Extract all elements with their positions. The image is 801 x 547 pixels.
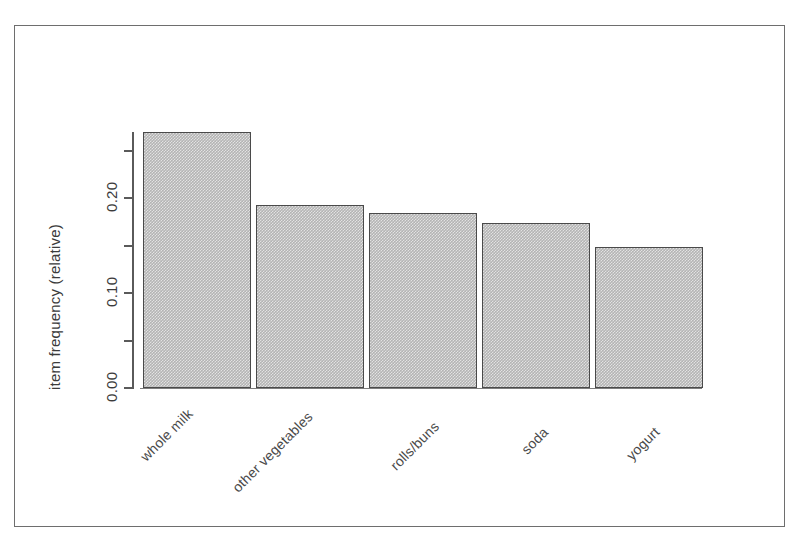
bar-rolls-buns[interactable]	[369, 213, 477, 388]
bar-chart-plot: item frequency (relative) 0.00 0.10 0.20…	[0, 0, 801, 547]
x-label-whole-milk: whole milk	[137, 405, 196, 464]
bar-whole-milk[interactable]	[143, 132, 251, 389]
y-tick-2	[124, 292, 133, 294]
x-axis-baseline	[140, 388, 702, 389]
y-tick-1	[124, 340, 133, 342]
x-label-other-vegetables: other vegetables	[229, 409, 316, 496]
bar-soda[interactable]	[482, 223, 590, 388]
x-label-rolls-buns: rolls/buns	[387, 418, 442, 473]
y-tick-label-0-20: 0.20	[103, 182, 120, 212]
bar-other-vegetables[interactable]	[256, 205, 364, 388]
y-axis-title: item frequency (relative)	[46, 90, 63, 390]
x-label-yogurt: yogurt	[623, 424, 663, 464]
y-tick-5	[124, 150, 133, 152]
y-tick-0	[124, 387, 133, 389]
x-label-soda: soda	[518, 424, 551, 457]
y-tick-label-0-00: 0.00	[103, 372, 120, 402]
y-tick-3	[124, 245, 133, 247]
y-axis-spine	[132, 132, 134, 389]
bar-yogurt[interactable]	[595, 247, 703, 388]
y-tick-label-0-10: 0.10	[103, 277, 120, 307]
y-tick-4	[124, 197, 133, 199]
